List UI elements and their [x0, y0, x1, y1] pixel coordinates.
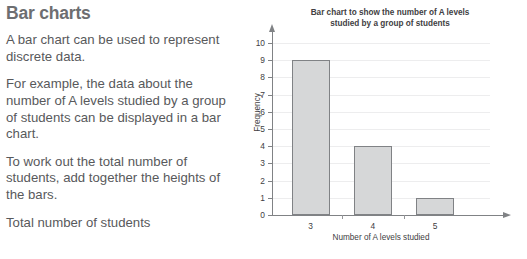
- bar: [292, 60, 330, 215]
- plot-area: 012345678910 345 Frequency Number of A l…: [243, 0, 527, 259]
- paragraph-total: Total number of students: [6, 215, 234, 232]
- bar: [354, 146, 392, 215]
- x-axis-title: Number of A levels studied: [272, 233, 490, 242]
- x-axis-tick-label: 4: [358, 221, 388, 231]
- y-axis-line: [272, 31, 273, 215]
- y-axis-arrow-icon: [269, 24, 275, 32]
- bar: [416, 198, 454, 215]
- x-axis-tick: [404, 215, 405, 219]
- y-axis-tick-label: 0: [249, 211, 265, 219]
- y-axis-tick-label: 1: [249, 194, 265, 202]
- x-axis-line: [272, 215, 504, 216]
- article-text-column: Bar charts A bar chart can be used to re…: [6, 4, 234, 231]
- bar-chart: Bar chart to show the number of A levels…: [243, 0, 527, 259]
- page-root: Bar charts A bar chart can be used to re…: [0, 0, 527, 259]
- paragraph-definition: A bar chart can be used to represent dis…: [6, 32, 234, 65]
- y-axis-title: Frequency: [253, 73, 262, 153]
- y-axis-tick-label: 9: [249, 56, 265, 64]
- x-axis-tick-label: 5: [420, 221, 450, 231]
- gridline: [272, 43, 490, 44]
- y-axis-tick-label: 2: [249, 177, 265, 185]
- page-title: Bar charts: [6, 4, 234, 23]
- y-axis-tick-label: 3: [249, 159, 265, 167]
- x-axis-tick: [342, 215, 343, 219]
- x-axis-arrow-icon: [503, 212, 511, 218]
- x-axis-tick-label: 3: [296, 221, 326, 231]
- paragraph-method: To work out the total number of students…: [6, 154, 234, 204]
- paragraph-example: For example, the data about the number o…: [6, 76, 234, 142]
- y-axis-tick-label: 10: [249, 39, 265, 47]
